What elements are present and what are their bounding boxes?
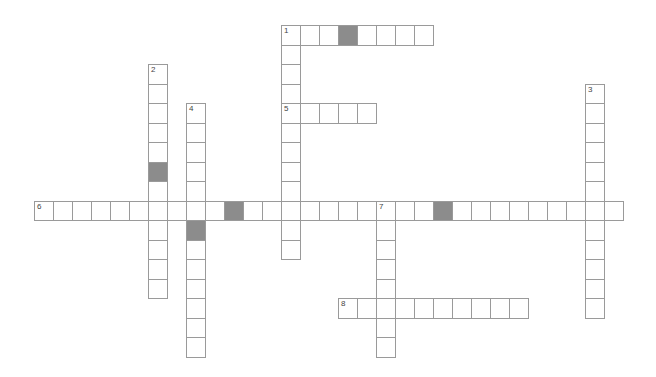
crossword-cell[interactable]	[585, 279, 605, 300]
crossword-cell[interactable]	[414, 298, 434, 319]
crossword-cell[interactable]	[585, 123, 605, 144]
crossword-cell[interactable]	[585, 142, 605, 163]
crossword-cell[interactable]	[281, 181, 301, 202]
crossword-cell[interactable]	[148, 201, 168, 222]
crossword-cell[interactable]	[414, 201, 434, 222]
crossword-cell[interactable]	[148, 220, 168, 241]
crossword-cell[interactable]	[186, 298, 206, 319]
crossword-cell[interactable]	[338, 103, 358, 124]
crossword-cell[interactable]	[357, 103, 377, 124]
crossword-cell[interactable]	[490, 201, 510, 222]
crossword-cell[interactable]	[281, 84, 301, 105]
crossword-cell[interactable]	[414, 25, 434, 46]
crossword-cell[interactable]	[319, 103, 339, 124]
crossword-cell[interactable]	[148, 181, 168, 202]
crossword-cell[interactable]	[452, 201, 472, 222]
crossword-cell[interactable]	[452, 298, 472, 319]
crossword-cell[interactable]	[167, 201, 187, 222]
crossword-cell[interactable]	[148, 84, 168, 105]
crossword-cell[interactable]: 2	[148, 64, 168, 85]
crossword-cell[interactable]	[319, 25, 339, 46]
crossword-cell[interactable]	[395, 201, 415, 222]
crossword-cell[interactable]	[376, 220, 396, 241]
crossword-cell[interactable]: 4	[186, 103, 206, 124]
blocked-cell	[338, 25, 358, 46]
crossword-cell[interactable]	[585, 298, 605, 319]
crossword-cell[interactable]: 1	[281, 25, 301, 46]
crossword-cell[interactable]	[585, 220, 605, 241]
crossword-cell[interactable]	[471, 201, 491, 222]
crossword-cell[interactable]	[376, 279, 396, 300]
crossword-cell[interactable]	[186, 181, 206, 202]
crossword-cell[interactable]	[585, 201, 605, 222]
crossword-cell[interactable]	[186, 201, 206, 222]
crossword-cell[interactable]	[205, 201, 225, 222]
crossword-cell[interactable]	[281, 201, 301, 222]
crossword-cell[interactable]	[281, 142, 301, 163]
crossword-cell[interactable]	[186, 279, 206, 300]
crossword-cell[interactable]	[357, 201, 377, 222]
crossword-cell[interactable]	[148, 240, 168, 261]
crossword-cell[interactable]	[376, 318, 396, 339]
crossword-cell[interactable]	[110, 201, 130, 222]
crossword-cell[interactable]	[528, 201, 548, 222]
crossword-cell[interactable]	[585, 259, 605, 280]
crossword-cell[interactable]	[566, 201, 586, 222]
crossword-cell[interactable]	[53, 201, 73, 222]
crossword-cell[interactable]	[186, 318, 206, 339]
crossword-cell[interactable]	[148, 259, 168, 280]
crossword-cell[interactable]	[585, 103, 605, 124]
crossword-cell[interactable]	[281, 240, 301, 261]
crossword-cell[interactable]	[490, 298, 510, 319]
crossword-cell[interactable]	[547, 201, 567, 222]
crossword-cell[interactable]	[72, 201, 92, 222]
crossword-cell[interactable]	[91, 201, 111, 222]
crossword-cell[interactable]	[300, 201, 320, 222]
crossword-cell[interactable]	[585, 162, 605, 183]
crossword-cell[interactable]: 3	[585, 84, 605, 105]
crossword-cell[interactable]	[357, 25, 377, 46]
crossword-cell[interactable]	[395, 298, 415, 319]
crossword-cell[interactable]	[300, 103, 320, 124]
crossword-cell[interactable]	[148, 123, 168, 144]
clue-number: 5	[284, 104, 288, 113]
crossword-cell[interactable]	[585, 181, 605, 202]
crossword-cell[interactable]	[186, 123, 206, 144]
crossword-cell[interactable]	[509, 201, 529, 222]
crossword-cell[interactable]	[376, 25, 396, 46]
crossword-cell[interactable]	[186, 337, 206, 358]
crossword-cell[interactable]	[262, 201, 282, 222]
crossword-cell[interactable]	[148, 103, 168, 124]
crossword-cell[interactable]	[319, 201, 339, 222]
crossword-cell[interactable]	[300, 25, 320, 46]
crossword-cell[interactable]	[243, 201, 263, 222]
crossword-cell[interactable]	[186, 240, 206, 261]
crossword-cell[interactable]: 5	[281, 103, 301, 124]
crossword-cell[interactable]	[509, 298, 529, 319]
crossword-cell[interactable]: 6	[34, 201, 54, 222]
crossword-cell[interactable]	[376, 298, 396, 319]
crossword-cell[interactable]	[129, 201, 149, 222]
crossword-cell[interactable]	[281, 45, 301, 66]
crossword-cell[interactable]	[281, 220, 301, 241]
crossword-cell[interactable]	[186, 162, 206, 183]
crossword-cell[interactable]	[281, 162, 301, 183]
crossword-cell[interactable]	[186, 142, 206, 163]
crossword-cell[interactable]	[186, 259, 206, 280]
crossword-cell[interactable]	[433, 298, 453, 319]
crossword-cell[interactable]	[604, 201, 624, 222]
crossword-cell[interactable]	[376, 259, 396, 280]
crossword-cell[interactable]	[338, 201, 358, 222]
crossword-cell[interactable]: 8	[338, 298, 358, 319]
crossword-cell[interactable]	[148, 142, 168, 163]
crossword-cell[interactable]	[585, 240, 605, 261]
crossword-cell[interactable]: 7	[376, 201, 396, 222]
crossword-cell[interactable]	[281, 64, 301, 85]
crossword-cell[interactable]	[471, 298, 491, 319]
crossword-cell[interactable]	[376, 240, 396, 261]
crossword-cell[interactable]	[357, 298, 377, 319]
crossword-cell[interactable]	[395, 25, 415, 46]
crossword-cell[interactable]	[281, 123, 301, 144]
crossword-cell[interactable]	[148, 279, 168, 300]
crossword-cell[interactable]	[376, 337, 396, 358]
